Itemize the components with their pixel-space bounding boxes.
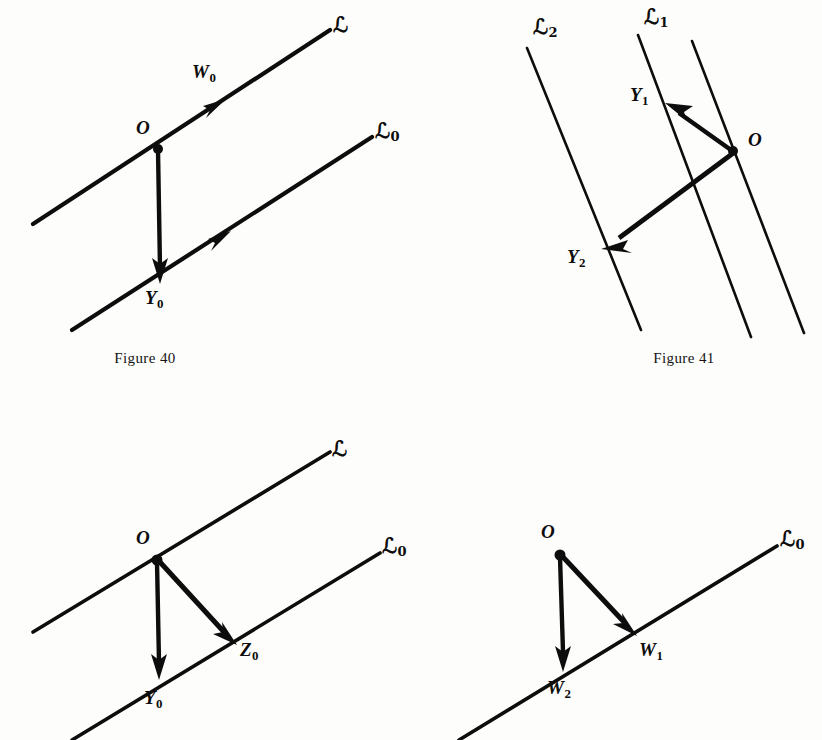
line-L1: [638, 35, 751, 337]
line-unlabeled: [692, 41, 804, 333]
vector-O-to-Z0: [159, 561, 224, 632]
vector-O-to-Y0: [158, 150, 160, 268]
figure-lower-left-drawing: [0, 400, 411, 740]
figure-41-drawing: [411, 0, 822, 380]
point-O-marker: [728, 146, 738, 156]
label-point-O: O: [136, 118, 150, 137]
label-point-Z0: Z0: [240, 640, 259, 663]
figure-lower-right-drawing: [411, 400, 822, 740]
figure-40: ℒ ℒ0 W0 O Y0 Figure 40: [0, 0, 411, 380]
figure-41: ℒ2 ℒ1 Y1 Y2 O Figure 41: [411, 0, 822, 380]
line-L2: [527, 48, 641, 330]
vector-O-to-Y2: [619, 154, 732, 238]
figure-41-caption: Figure 41: [539, 350, 822, 367]
label-point-W2: W2: [547, 678, 571, 701]
label-line-L: ℒ: [332, 438, 347, 459]
point-O-marker: [555, 550, 566, 561]
point-O-marker: [153, 144, 163, 154]
figure-40-drawing: [0, 0, 411, 380]
figure-lower-left: ℒ ℒ0 O Y0 Z0: [0, 400, 411, 740]
label-point-Y2: Y2: [567, 247, 586, 270]
label-line-L0: ℒ0: [780, 528, 805, 551]
label-point-Y0: Y0: [145, 288, 164, 311]
vector-O-to-W2: [560, 557, 563, 652]
label-vector-W0: W0: [192, 62, 216, 85]
label-point-O: O: [748, 130, 762, 149]
label-point-O: O: [541, 522, 555, 541]
line-L0: [72, 137, 372, 330]
label-point-W1: W1: [639, 640, 663, 663]
label-line-L0: ℒ0: [375, 120, 400, 143]
label-point-Y0: Y0: [144, 688, 163, 711]
label-line-L0: ℒ0: [382, 535, 407, 558]
label-line-L1: ℒ1: [644, 6, 669, 29]
label-line-L: ℒ: [333, 14, 348, 35]
line-L: [33, 452, 330, 632]
label-point-Y1: Y1: [630, 85, 649, 108]
line-L0: [459, 546, 777, 740]
vector-O-to-W1: [562, 556, 624, 622]
page-canvas: ℒ ℒ0 W0 O Y0 Figure 40 ℒ2 ℒ1 Y1 Y: [0, 0, 822, 740]
figure-40-caption: Figure 40: [0, 350, 290, 367]
point-O-marker: [152, 555, 163, 566]
figure-lower-right: O ℒ0 W1 W2: [411, 400, 822, 740]
label-line-L2: ℒ2: [533, 16, 558, 39]
vector-O-to-Y0: [157, 562, 159, 662]
label-point-O: O: [136, 528, 150, 547]
vector-O-to-Y1: [679, 113, 731, 150]
